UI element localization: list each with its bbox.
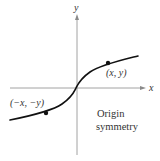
caption-line-1: Origin: [97, 108, 125, 119]
point-x-y-label: (x, y): [106, 67, 127, 79]
caption-line-2: symmetry: [96, 121, 139, 132]
x-axis: [10, 86, 146, 90]
x-axis-label: x: [148, 82, 154, 93]
x-axis-arrow-icon: [140, 86, 146, 90]
point-neg-x-neg-y: [44, 111, 48, 115]
origin-symmetry-diagram: y x (x, y) (−x, −y) Origin symmetry: [0, 0, 160, 161]
y-axis-label: y: [73, 2, 79, 13]
point-neg-x-neg-y-label: (−x, −y): [10, 97, 45, 109]
y-axis-arrow-icon: [75, 14, 79, 20]
point-x-y: [106, 61, 110, 65]
